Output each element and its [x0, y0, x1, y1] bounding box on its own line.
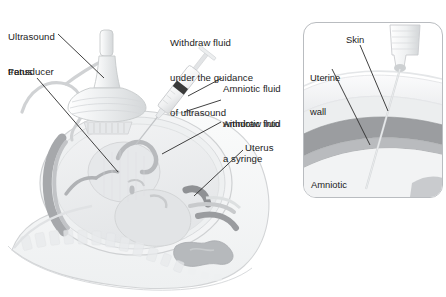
label-amniotic-fluid-syringe-line3: a syringe: [223, 153, 281, 165]
label-withdraw-fluid-line1: Withdraw fluid: [170, 37, 253, 49]
needle-hub: [390, 25, 420, 72]
label-uterine-wall-line1: Uterine: [310, 72, 340, 83]
label-amniotic-fluid-syringe-line1: Amniotic fluid: [223, 83, 281, 95]
inset-panel: Uterine wall Skin Amniotic cavity: [303, 22, 443, 198]
label-uterus: Uterus: [245, 142, 274, 154]
leader-ultrasound-transducer: [58, 34, 104, 78]
label-uterine-wall: Uterine wall: [310, 49, 340, 140]
label-fetus: Fetus: [8, 66, 32, 78]
label-ultrasound-transducer: Ultrasound transducer: [8, 8, 55, 101]
label-ultrasound-transducer-line1: Ultrasound: [8, 31, 55, 43]
figure-canvas: Ultrasound transducer Fetus Withdraw flu…: [0, 0, 446, 297]
label-amniotic-cavity-line1: Amniotic: [311, 179, 347, 190]
label-uterine-wall-line2: wall: [310, 106, 340, 117]
label-amniotic-cavity: Amniotic cavity: [311, 156, 347, 198]
label-skin: Skin: [346, 34, 364, 45]
label-amniotic-fluid: Amniotic fluid: [223, 118, 281, 130]
